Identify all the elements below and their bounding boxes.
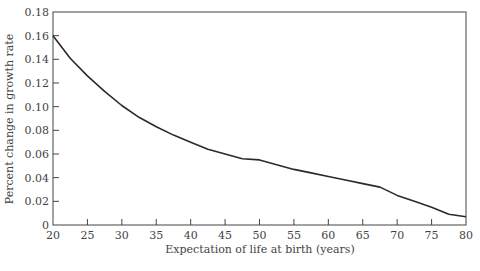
x-tick-label: 75 [425,229,439,242]
x-tick-label: 40 [184,229,198,242]
x-tick-label: 35 [149,229,163,242]
y-tick-label: 0.08 [25,124,50,137]
x-axis: 20253035404550556065707580 [46,219,473,242]
x-tick-label: 70 [390,229,404,242]
x-tick-label: 30 [115,229,129,242]
y-axis: 00.020.040.060.080.100.120.140.160.18 [25,6,60,232]
x-tick-label: 50 [253,229,267,242]
y-tick-label: 0.10 [25,101,50,114]
x-tick-label: 65 [356,229,370,242]
y-tick-label: 0.06 [25,148,50,161]
x-tick-label: 55 [287,229,301,242]
x-tick-label: 60 [321,229,335,242]
y-axis-label: Percent change in growth rate [3,34,16,204]
line-chart: 00.020.040.060.080.100.120.140.160.18 20… [0,0,480,271]
x-tick-label: 25 [80,229,94,242]
plot-frame [53,12,466,225]
x-tick-label: 20 [46,229,60,242]
x-axis-label: Expectation of life at birth (years) [165,243,354,256]
y-tick-label: 0.12 [25,77,50,90]
y-tick-label: 0.14 [25,53,50,66]
y-tick-label: 0.04 [25,172,50,185]
y-tick-label: 0.18 [25,6,50,19]
y-tick-label: 0.16 [25,30,50,43]
x-tick-label: 80 [459,229,473,242]
x-tick-label: 45 [218,229,232,242]
y-tick-label: 0.02 [25,195,50,208]
data-line [53,36,466,217]
